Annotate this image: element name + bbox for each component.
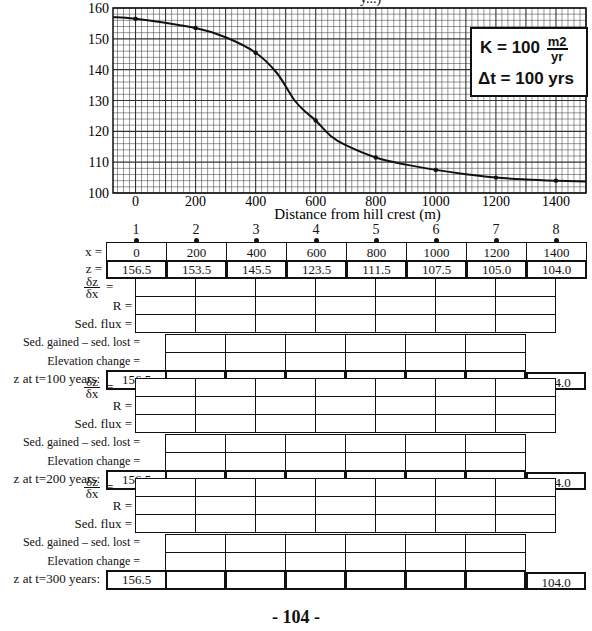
elevation-change-cell[interactable] [285,552,346,571]
sed-gained-lost-cell[interactable] [405,334,466,353]
elevation-change-cell[interactable] [405,352,466,371]
r-cell[interactable] [255,296,316,315]
elevation-change-cell[interactable] [405,452,466,471]
dzdx-cell[interactable] [375,478,436,497]
sed-gained-lost-cell[interactable] [465,534,526,553]
sed-flux-cell[interactable] [495,514,556,533]
elevation-change-cell[interactable] [165,552,226,571]
sed-flux-cell[interactable] [255,514,316,533]
dzdx-cell[interactable] [375,378,436,397]
sed-flux-cell[interactable] [435,514,496,533]
sed-gained-lost-cell[interactable] [285,534,346,553]
sed-gained-lost-cell[interactable] [345,434,406,453]
sed-flux-cell[interactable] [495,314,556,333]
elevation-change-cell[interactable] [345,352,406,371]
dzdx-cell[interactable] [495,278,556,297]
r-cell[interactable] [255,496,316,515]
elevation-change-cell[interactable] [285,452,346,471]
sed-gained-lost-cell[interactable] [285,334,346,353]
r-cell[interactable] [135,396,196,415]
z-at-time-cell[interactable] [165,570,226,590]
elevation-change-cell[interactable] [285,352,346,371]
sed-flux-cell[interactable] [495,414,556,433]
r-cell[interactable] [195,296,256,315]
sed-gained-lost-cell[interactable] [225,534,286,553]
sed-flux-cell[interactable] [435,314,496,333]
sed-gained-lost-cell[interactable] [165,334,226,353]
elevation-change-cell[interactable] [345,452,406,471]
r-cell[interactable] [375,396,436,415]
z-value-cell[interactable]: 105.0 [466,260,527,279]
dzdx-cell[interactable] [135,278,196,297]
x-value-cell[interactable]: 200 [166,242,227,261]
sed-flux-cell[interactable] [195,314,256,333]
elevation-change-cell[interactable] [465,452,526,471]
dzdx-cell[interactable] [375,278,436,297]
sed-gained-lost-cell[interactable] [345,334,406,353]
dzdx-cell[interactable] [255,478,316,497]
sed-flux-cell[interactable] [375,414,436,433]
x-value-cell[interactable]: 1200 [466,242,527,261]
r-cell[interactable] [495,496,556,515]
dzdx-cell[interactable] [315,478,376,497]
elevation-change-cell[interactable] [225,452,286,471]
z-value-cell[interactable]: 156.5 [106,260,167,279]
sed-flux-cell[interactable] [315,514,376,533]
r-cell[interactable] [495,296,556,315]
r-cell[interactable] [435,296,496,315]
r-cell[interactable] [315,296,376,315]
z-value-cell[interactable]: 104.0 [526,260,587,279]
sed-gained-lost-cell[interactable] [345,534,406,553]
dzdx-cell[interactable] [315,378,376,397]
sed-flux-cell[interactable] [255,314,316,333]
r-cell[interactable] [435,396,496,415]
x-value-cell[interactable]: 1000 [406,242,467,261]
dzdx-cell[interactable] [495,378,556,397]
r-cell[interactable] [195,496,256,515]
sed-gained-lost-cell[interactable] [405,434,466,453]
z-at-time-cell[interactable] [225,570,286,590]
x-value-cell[interactable]: 0 [106,242,167,261]
dzdx-cell[interactable] [255,378,316,397]
elevation-change-cell[interactable] [465,552,526,571]
z-value-cell[interactable]: 123.5 [286,260,347,279]
dzdx-cell[interactable] [135,378,196,397]
x-value-cell[interactable]: 800 [346,242,407,261]
sed-flux-cell[interactable] [195,514,256,533]
sed-flux-cell[interactable] [135,414,196,433]
x-value-cell[interactable]: 400 [226,242,287,261]
r-cell[interactable] [195,396,256,415]
sed-flux-cell[interactable] [135,314,196,333]
sed-gained-lost-cell[interactable] [465,334,526,353]
sed-flux-cell[interactable] [375,514,436,533]
dzdx-cell[interactable] [195,278,256,297]
sed-flux-cell[interactable] [135,514,196,533]
sed-flux-cell[interactable] [315,314,376,333]
dzdx-cell[interactable] [255,278,316,297]
sed-gained-lost-cell[interactable] [285,434,346,453]
sed-gained-lost-cell[interactable] [225,334,286,353]
r-cell[interactable] [435,496,496,515]
z-at-time-first-cell[interactable]: 156.5 [106,570,167,590]
dzdx-cell[interactable] [195,378,256,397]
r-cell[interactable] [135,296,196,315]
z-value-cell[interactable]: 111.5 [346,260,407,279]
r-cell[interactable] [375,496,436,515]
sed-flux-cell[interactable] [435,414,496,433]
elevation-change-cell[interactable] [225,352,286,371]
z-value-cell[interactable]: 153.5 [166,260,227,279]
r-cell[interactable] [255,396,316,415]
elevation-change-cell[interactable] [465,352,526,371]
dzdx-cell[interactable] [195,478,256,497]
z-at-time-cell[interactable] [285,570,346,590]
elevation-change-cell[interactable] [345,552,406,571]
z-value-cell[interactable]: 145.5 [226,260,287,279]
z-at-time-last-cell[interactable]: 104.0 [526,572,586,590]
sed-flux-cell[interactable] [375,314,436,333]
sed-gained-lost-cell[interactable] [405,534,466,553]
r-cell[interactable] [495,396,556,415]
dzdx-cell[interactable] [435,478,496,497]
dzdx-cell[interactable] [435,378,496,397]
r-cell[interactable] [135,496,196,515]
z-at-time-cell[interactable] [405,570,466,590]
